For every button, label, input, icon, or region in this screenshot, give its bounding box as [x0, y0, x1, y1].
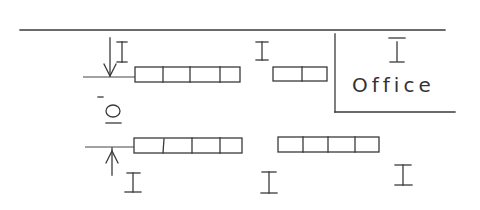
i-beam-bottom-middle-icon — [261, 172, 277, 193]
i-beam-bottom-left-icon — [125, 173, 141, 192]
office-label: Office — [352, 73, 435, 97]
floor-plan-diagram: Office — [0, 0, 480, 210]
down-arrow-icon — [104, 38, 116, 76]
bench-row1-left — [135, 67, 240, 82]
bench-row2-left — [134, 138, 242, 153]
office-room: Office — [335, 34, 455, 112]
dimension-label — [98, 97, 121, 123]
i-beam-bottom-right-icon — [395, 165, 412, 185]
i-beam-top-middle-icon — [256, 42, 268, 60]
bench-row1-right — [273, 67, 327, 81]
bench-row2-right — [278, 137, 379, 152]
up-arrow-icon — [106, 148, 118, 175]
i-beam-top-left-icon — [117, 42, 127, 62]
i-beam-office-icon — [389, 38, 405, 62]
